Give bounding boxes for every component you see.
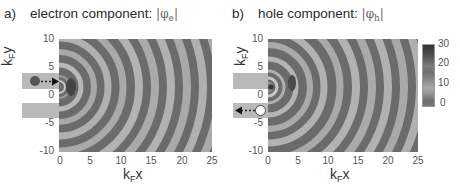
- panel-b-xlabel: kFx: [330, 166, 350, 184]
- panel-b-label: b): [232, 6, 244, 21]
- panel-a-title: a)electron component: |φe|: [4, 6, 178, 23]
- colorbar-tick: 10: [438, 77, 449, 88]
- panel-b-upper-lead: [233, 73, 268, 89]
- panel-b-symbol: |φh|: [362, 7, 384, 21]
- ytick: 0: [237, 89, 263, 100]
- ylabel-sub: F: [240, 54, 250, 60]
- ylabel-var: y: [0, 47, 15, 54]
- ytick: 10: [28, 33, 54, 44]
- panel-a-symbol: |φe|: [156, 7, 178, 21]
- xtick: 25: [202, 155, 222, 166]
- panel-b-title: b)hole component: |φh|: [232, 6, 384, 23]
- xtick: 20: [378, 155, 398, 166]
- ytick: 10: [237, 33, 263, 44]
- arrow-right-icon: [40, 77, 60, 86]
- xtick: 0: [50, 155, 70, 166]
- electron-dot-icon: [30, 76, 40, 86]
- colorbar-tick: 20: [438, 57, 449, 68]
- xtick: 15: [141, 155, 161, 166]
- colorbar-tick: 0: [440, 97, 446, 108]
- xtick: 25: [408, 155, 428, 166]
- ylabel-sub: F: [7, 54, 17, 60]
- ytick: 5: [237, 61, 263, 72]
- xtick: 5: [288, 155, 308, 166]
- xlabel-k: k: [330, 166, 337, 182]
- ytick: -5: [28, 117, 54, 128]
- panel-b-rings: [268, 39, 418, 152]
- xlabel-k: k: [123, 166, 130, 182]
- panel-a-xlabel: kFx: [123, 166, 143, 184]
- phi-symbol: φ: [366, 7, 374, 21]
- ytick: -5: [237, 117, 263, 128]
- ylabel-k: k: [0, 59, 15, 66]
- colorbar: [422, 44, 435, 107]
- panel-b-heatmap: [268, 39, 418, 152]
- xtick: 20: [172, 155, 192, 166]
- hole-dot-icon: [255, 105, 266, 116]
- panel-a-ylabel: kFy: [0, 47, 17, 67]
- panel-a-heatmap: [59, 39, 212, 152]
- ytick: 5: [28, 61, 54, 72]
- panel-a-label: a): [4, 6, 16, 21]
- xtick: 5: [80, 155, 100, 166]
- panel-b-title-text: hole component:: [258, 6, 358, 21]
- ytick: 0: [28, 89, 54, 100]
- panel-a-title-text: electron component:: [30, 6, 152, 21]
- colorbar-tick: 30: [438, 38, 449, 49]
- xlabel-var: x: [136, 166, 143, 182]
- phi-subscript: e: [169, 13, 174, 23]
- xtick: 0: [258, 155, 278, 166]
- xtick: 10: [318, 155, 338, 166]
- xtick: 15: [348, 155, 368, 166]
- panel-a-lower-lead: [22, 103, 59, 118]
- phi-subscript: h: [374, 13, 380, 23]
- xtick: 10: [111, 155, 131, 166]
- ylabel-var: y: [232, 47, 248, 54]
- xlabel-var: x: [343, 166, 350, 182]
- phi-symbol: φ: [160, 7, 168, 21]
- panel-a-rings: [59, 39, 212, 152]
